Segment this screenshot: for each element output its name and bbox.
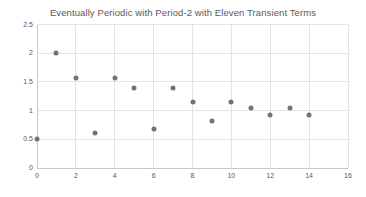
data-point: [287, 105, 292, 110]
gridline-vertical: [309, 25, 310, 169]
gridline-vertical: [348, 25, 349, 169]
data-point: [73, 75, 78, 80]
y-tick-label: 1: [8, 107, 33, 115]
gridline-vertical: [270, 25, 271, 169]
data-point: [209, 118, 214, 123]
y-axis-line: [37, 25, 38, 169]
data-point: [268, 112, 273, 117]
gridline-vertical: [192, 25, 193, 169]
x-tick-label: 0: [27, 172, 47, 180]
data-point: [35, 137, 40, 142]
y-tick-label: 1.5: [8, 78, 33, 86]
data-point: [190, 99, 195, 104]
plot-area: 00.511.522.50246810121416: [0, 0, 366, 197]
x-tick-label: 4: [105, 172, 125, 180]
x-tick-label: 16: [338, 172, 358, 180]
x-tick-label: 6: [144, 172, 164, 180]
data-point: [151, 126, 156, 131]
scatter-chart: Eventually Periodic with Period-2 with E…: [0, 0, 366, 197]
data-point: [112, 75, 117, 80]
x-tick-label: 8: [183, 172, 203, 180]
data-point: [307, 112, 312, 117]
data-point: [132, 85, 137, 90]
gridline-vertical: [153, 25, 154, 169]
y-tick-label: 0: [8, 164, 33, 172]
data-point: [248, 105, 253, 110]
gridline-vertical: [75, 25, 76, 169]
x-tick-label: 2: [66, 172, 86, 180]
data-point: [93, 130, 98, 135]
y-tick-label: 0.5: [8, 135, 33, 143]
gridline-vertical: [231, 25, 232, 169]
x-tick-label: 12: [260, 172, 280, 180]
data-point: [171, 85, 176, 90]
y-tick-label: 2.5: [8, 21, 33, 29]
data-point: [229, 99, 234, 104]
y-tick-label: 2: [8, 49, 33, 57]
x-tick-label: 14: [299, 172, 319, 180]
x-tick-label: 10: [221, 172, 241, 180]
gridline-vertical: [114, 25, 115, 169]
data-point: [54, 51, 59, 56]
